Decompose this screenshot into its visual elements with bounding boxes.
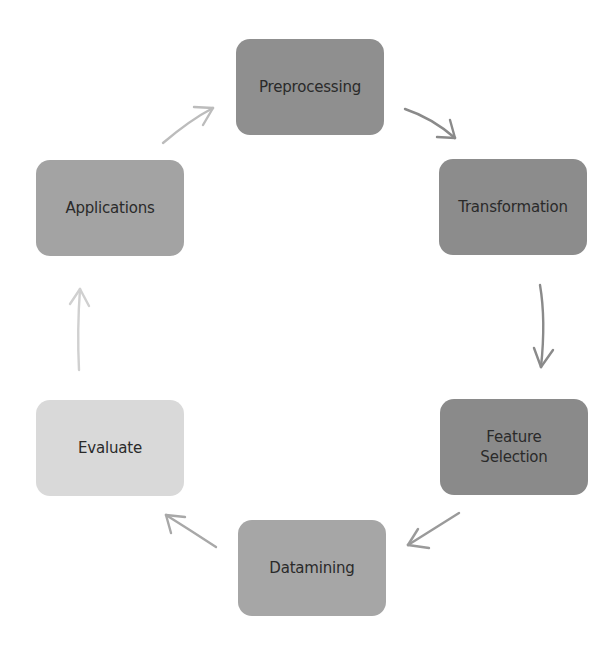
node-label: Feature Selection xyxy=(480,427,547,468)
cycle-diagram: Preprocessing Transformation Feature Sel… xyxy=(0,0,613,650)
node-evaluate: Evaluate xyxy=(36,400,184,496)
arrow-feature-selection-to-datamining xyxy=(408,513,459,548)
node-transformation: Transformation xyxy=(439,159,587,255)
arrow-datamining-to-evaluate xyxy=(166,515,216,547)
node-applications: Applications xyxy=(36,160,184,256)
arrow-evaluate-to-applications xyxy=(70,289,89,370)
arrow-applications-to-preprocessing xyxy=(163,107,213,143)
node-feature-selection: Feature Selection xyxy=(440,399,588,495)
node-label: Preprocessing xyxy=(259,77,361,97)
arrow-transformation-to-feature-selection xyxy=(534,285,553,367)
node-preprocessing: Preprocessing xyxy=(236,39,384,135)
node-label: Transformation xyxy=(458,197,568,217)
arrow-preprocessing-to-transformation xyxy=(405,109,455,138)
node-label: Datamining xyxy=(269,558,354,578)
node-label: Evaluate xyxy=(78,438,142,458)
node-datamining: Datamining xyxy=(238,520,386,616)
node-label: Applications xyxy=(65,198,154,218)
